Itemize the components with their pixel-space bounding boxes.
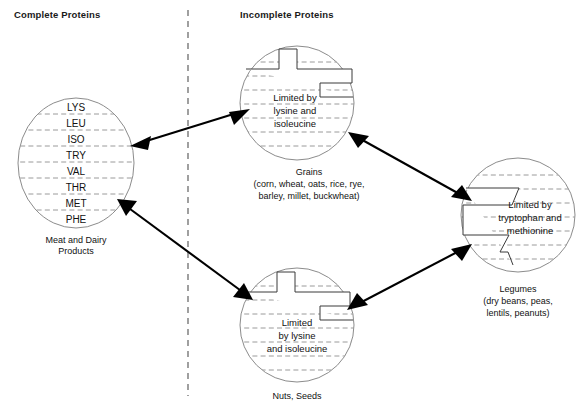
amino-acid-leu: LEU xyxy=(66,118,85,129)
amino-acid-val: VAL xyxy=(67,166,86,177)
meat-dairy-caption-line1: Meat and Dairy xyxy=(45,235,107,245)
grains-caption-line2: (corn, wheat, oats, rice, rye, xyxy=(253,179,364,189)
legumes-caption-line3: lentils, peanuts) xyxy=(486,308,549,318)
right-column-header: Incomplete Proteins xyxy=(240,9,334,20)
node-nuts-and-seeds: Limited by lysine and isoleucine Nuts, S… xyxy=(236,268,360,401)
amino-acid-iso: ISO xyxy=(67,134,84,145)
grains-limit-line1: Limited by xyxy=(273,92,317,103)
nuts-seeds-caption-line1: Nuts, Seeds xyxy=(272,391,322,401)
amino-acid-lys: LYS xyxy=(67,102,85,113)
nuts-seeds-limit-line3: and isoleucine xyxy=(267,343,328,354)
left-column-header: Complete Proteins xyxy=(14,9,100,20)
protein-complementarity-diagram: Complete Proteins Incomplete Proteins LY… xyxy=(0,0,582,406)
nuts-seeds-limit-line2: by lysine xyxy=(279,330,316,341)
arrow-head-toward-meat-dairy-2 xyxy=(117,199,137,216)
legumes-caption-line2: (dry beans, peas, xyxy=(483,296,553,306)
legumes-limit-line3: methionine xyxy=(507,225,553,236)
amino-acid-thr: THR xyxy=(66,182,87,193)
diagram-canvas: Complete Proteins Incomplete Proteins LY… xyxy=(0,0,582,406)
node-meat-and-dairy: LYS LEU ISO TRY VAL THR MET PHE Meat and… xyxy=(12,98,140,256)
connector-nuts-seeds-to-meat-dairy xyxy=(117,199,253,300)
connector-grains-to-legumes xyxy=(348,132,472,201)
legumes-caption-line1: Legumes xyxy=(499,284,537,294)
meat-dairy-caption-line2: Products xyxy=(58,246,94,256)
arrow-head-toward-meat-dairy xyxy=(130,136,151,150)
legumes-limit-line2: tryptophan and xyxy=(498,212,561,223)
nuts-seeds-limit-line1: Limited xyxy=(282,317,313,328)
legumes-limit-line1: Limited by xyxy=(508,199,552,210)
connector-legumes-to-nuts-seeds xyxy=(347,244,472,310)
grains-caption-line1: Grains xyxy=(296,167,323,177)
connector-meat-dairy-to-grains xyxy=(130,109,250,150)
grains-limit-line2: lysine and xyxy=(274,105,317,116)
grains-limit-line3: isoleucine xyxy=(274,118,316,129)
amino-acid-try: TRY xyxy=(66,150,86,161)
arrow-head-toward-grains-2 xyxy=(348,132,369,148)
grains-caption-line3: barley, millet, buckwheat) xyxy=(259,191,360,201)
amino-acid-phe: PHE xyxy=(66,214,87,225)
node-grains: Limited by lysine and isoleucine Grains … xyxy=(236,46,365,201)
amino-acid-met: MET xyxy=(65,198,86,209)
node-legumes: Limited by tryptophan and methionine Leg… xyxy=(458,158,580,318)
